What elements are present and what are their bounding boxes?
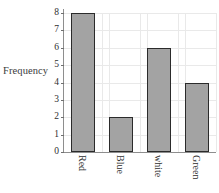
bar <box>185 83 209 153</box>
y-axis-tick-mark <box>61 65 64 66</box>
y-axis-tick-mark <box>61 152 64 153</box>
y-axis-title: Frequency <box>3 65 53 76</box>
y-axis-tick-mark <box>61 117 64 118</box>
y-axis-tick-mark <box>61 135 64 136</box>
gridline-vertical <box>178 13 179 152</box>
x-axis-line <box>63 152 216 153</box>
y-axis-tick-label: 2 <box>54 113 59 123</box>
x-axis-tick-label: white <box>153 155 163 177</box>
y-axis-tick-mark <box>61 100 64 101</box>
y-axis-tick-label: 5 <box>54 60 59 70</box>
x-axis-tick-label: Green <box>191 155 201 179</box>
gridline-vertical <box>140 13 141 152</box>
y-axis-tick-mark <box>61 48 64 49</box>
y-axis-tick-mark <box>61 13 64 14</box>
y-axis-tick-mark <box>61 30 64 31</box>
y-axis-tick-label: 3 <box>54 95 59 105</box>
bar <box>147 48 171 152</box>
y-axis-tick-label: 0 <box>54 147 59 157</box>
y-axis-tick-label: 1 <box>54 130 59 140</box>
bar-chart: Frequency 012345678 RedBluewhiteGreen <box>0 0 219 193</box>
y-axis-tick-mark <box>61 83 64 84</box>
x-axis-tick-label: Red <box>77 155 87 171</box>
plot-area: 012345678 <box>64 13 216 152</box>
y-axis-tick-label: 4 <box>54 78 59 88</box>
y-axis-tick-label: 7 <box>54 26 59 36</box>
y-axis-tick-label: 6 <box>54 43 59 53</box>
gridline-vertical <box>102 13 103 152</box>
gridline-vertical <box>216 13 217 152</box>
bar <box>71 13 95 152</box>
bar <box>109 117 133 152</box>
y-axis-tick-label: 8 <box>54 8 59 18</box>
x-axis-tick-label: Blue <box>115 155 125 174</box>
